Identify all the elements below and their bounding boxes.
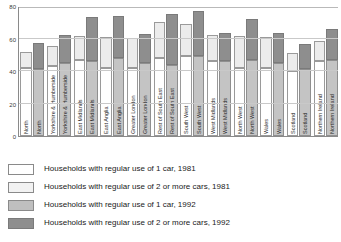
- bar-segment-2plus-1981: [260, 37, 272, 68]
- x-axis-category-label: South West: [196, 106, 202, 134]
- x-axis-category-label: Greater London: [130, 95, 136, 134]
- bar-group: ScotlandScotland: [286, 7, 313, 136]
- bar-segment-2plus-1981: [234, 36, 246, 68]
- x-axis-category-label: East Anglia: [116, 106, 122, 134]
- x-axis-category-label: North West: [237, 107, 243, 134]
- bar-segment-2plus-1992: [86, 17, 98, 61]
- bar-segment-2plus-1981: [207, 35, 219, 61]
- bar-segment-2plus-1981: [74, 36, 86, 60]
- x-axis-category-label: Yorkshire & Humberside: [50, 75, 56, 134]
- bar-group: Yorkshire & HumbersideYorkshire & Humber…: [46, 7, 73, 136]
- bar-group: West MidlandsWest Midlands: [206, 7, 233, 136]
- bar-segment-2plus-1981: [127, 38, 139, 68]
- x-axis-category-label: East Midlands: [77, 99, 83, 134]
- legend-item: Households with regular use of 1 car, 19…: [8, 160, 333, 178]
- y-axis-tick-label: 20: [9, 102, 16, 108]
- x-axis-category-label: East Anglia: [103, 106, 109, 134]
- x-axis-category-label: Wales: [263, 119, 269, 134]
- legend-swatch: [8, 218, 34, 229]
- bar-segment-2plus-1992: [299, 44, 311, 69]
- bar-group: North WestNorth West: [232, 7, 259, 136]
- bar-group: WalesWales: [259, 7, 286, 136]
- bar-segment-2plus-1992: [166, 14, 178, 64]
- bar-group: East MidlandsEast Midlands: [72, 7, 99, 136]
- x-axis-category-label: North: [36, 121, 42, 134]
- legend-item: Households with regular use of 2 or more…: [8, 214, 333, 232]
- gridline: [19, 38, 338, 39]
- x-axis-category-label: East Midlands: [89, 99, 95, 134]
- plot-area-wrapper: 020406080 NorthNorthYorkshire & Humbersi…: [0, 0, 341, 150]
- legend-swatch: [8, 200, 34, 211]
- legend-swatch: [8, 182, 34, 193]
- y-axis-tick-label: 0: [13, 134, 16, 140]
- bar-segment-2plus-1992: [246, 19, 258, 60]
- legend-swatch: [8, 164, 34, 175]
- legend-item: Households with regular use of 2 or more…: [8, 178, 333, 196]
- bars-container: NorthNorthYorkshire & HumbersideYorkshir…: [19, 7, 338, 136]
- bar-segment-2plus-1992: [59, 35, 71, 63]
- plot-area: NorthNorthYorkshire & HumbersideYorkshir…: [18, 7, 338, 137]
- bar-segment-2plus-1992: [33, 43, 45, 69]
- bar-segment-2plus-1981: [154, 22, 166, 58]
- chart-legend: Households with regular use of 1 car, 19…: [8, 160, 333, 232]
- bar-group: East AngliaEast Anglia: [99, 7, 126, 136]
- bar-group: South WestSouth West: [179, 7, 206, 136]
- y-axis-tick-label: 80: [9, 4, 16, 10]
- bar-segment-2plus-1981: [100, 37, 112, 68]
- x-axis-category-label: North: [23, 121, 29, 134]
- bar-segment-2plus-1992: [193, 11, 205, 57]
- legend-label: Households with regular use of 2 or more…: [44, 182, 230, 192]
- x-axis-category-label: South West: [183, 106, 189, 134]
- x-axis-category-label: Rest of South East: [157, 88, 163, 134]
- x-axis-category-label: Greater London: [142, 95, 148, 134]
- bar-segment-2plus-1981: [47, 46, 59, 66]
- legend-label: Households with regular use of 2 or more…: [44, 218, 230, 228]
- y-axis-tick-label: 60: [9, 37, 16, 43]
- bar-group: NorthNorth: [19, 7, 46, 136]
- x-axis-category-label: Scotland: [290, 113, 296, 134]
- x-axis-category-label: Rest of South East: [169, 88, 175, 134]
- bar-group: Rest of South EastRest of South East: [152, 7, 179, 136]
- gridline: [19, 103, 338, 104]
- x-axis-category-label: Yorkshire & Humberside: [62, 75, 68, 134]
- y-axis: 020406080: [0, 0, 18, 140]
- y-axis-tick-label: 40: [9, 69, 16, 75]
- chart-root: 020406080 NorthNorthYorkshire & Humbersi…: [0, 0, 341, 242]
- gridline: [19, 70, 338, 71]
- x-axis-category-label: Northern Ireland: [329, 94, 335, 134]
- bar-group: Greater LondonGreater London: [126, 7, 153, 136]
- legend-item: Households with regular use of 1 car, 19…: [8, 196, 333, 214]
- x-axis-category-label: Northern Ireland: [317, 94, 323, 134]
- bar-segment-2plus-1981: [180, 24, 192, 57]
- legend-label: Households with regular use of 1 car, 19…: [44, 200, 196, 210]
- bar-segment-2plus-1981: [20, 52, 32, 67]
- bar-segment-2plus-1981: [314, 41, 326, 61]
- bar-segment-2plus-1981: [287, 53, 299, 71]
- bar-group: Northern IrelandNorthern Ireland: [312, 7, 339, 136]
- x-axis-category-label: Wales: [276, 119, 282, 134]
- legend-label: Households with regular use of 1 car, 19…: [44, 164, 196, 174]
- x-axis-category-label: Scotland: [302, 113, 308, 134]
- bar-segment-2plus-1992: [326, 29, 338, 60]
- x-axis-category-label: North West: [249, 107, 255, 134]
